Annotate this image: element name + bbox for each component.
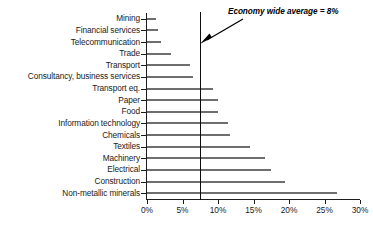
category-tick bbox=[141, 54, 147, 55]
category-tick bbox=[141, 30, 147, 31]
category-tick bbox=[141, 182, 147, 183]
value-tick bbox=[360, 200, 361, 204]
bar bbox=[147, 122, 228, 124]
bar bbox=[147, 29, 158, 31]
bar bbox=[147, 169, 271, 171]
bar bbox=[147, 134, 230, 136]
category-label: Telecommunication bbox=[71, 37, 140, 48]
value-tick bbox=[289, 200, 290, 204]
value-tick-label: 20% bbox=[274, 205, 304, 215]
category-tick bbox=[141, 147, 147, 148]
category-label: Transport bbox=[106, 60, 140, 71]
category-label: Trade bbox=[119, 48, 140, 59]
category-tick bbox=[141, 19, 147, 20]
category-label: Financial services bbox=[76, 25, 140, 36]
value-tick bbox=[218, 200, 219, 204]
category-label: Mining bbox=[116, 13, 140, 24]
bar bbox=[147, 146, 250, 148]
bar bbox=[147, 157, 265, 159]
value-tick-label: 15% bbox=[239, 205, 269, 215]
value-tick-label: 0% bbox=[132, 205, 162, 215]
annotation-arrow-icon bbox=[198, 18, 244, 44]
economy-average-annotation: Economy wide average = 8% bbox=[228, 7, 338, 16]
category-tick bbox=[141, 100, 147, 101]
category-label: Information technology bbox=[58, 118, 140, 129]
category-tick bbox=[141, 42, 147, 43]
value-tick-label: 25% bbox=[310, 205, 340, 215]
category-tick bbox=[141, 65, 147, 66]
category-tick bbox=[141, 77, 147, 78]
category-label: Transport eq. bbox=[92, 83, 140, 94]
plot-area bbox=[147, 13, 360, 199]
category-tick bbox=[141, 112, 147, 113]
bar bbox=[147, 64, 190, 66]
value-tick bbox=[183, 200, 184, 204]
category-tick bbox=[141, 135, 147, 136]
category-label: Machinery bbox=[103, 153, 140, 164]
bar bbox=[147, 41, 161, 43]
bar bbox=[147, 76, 193, 78]
bar bbox=[147, 53, 171, 55]
category-label: Paper bbox=[118, 95, 140, 106]
category-label: Electrical bbox=[107, 164, 140, 175]
bar bbox=[147, 111, 218, 113]
category-tick bbox=[141, 123, 147, 124]
value-tick-label: 30% bbox=[345, 205, 373, 215]
value-tick-label: 5% bbox=[168, 205, 198, 215]
bar bbox=[147, 88, 213, 90]
category-tick bbox=[141, 193, 147, 194]
category-label: Textiles bbox=[113, 141, 140, 152]
value-tick bbox=[254, 200, 255, 204]
bar bbox=[147, 99, 218, 101]
category-label: Construction bbox=[95, 176, 140, 187]
category-label: Consultancy, business services bbox=[28, 71, 140, 82]
category-tick bbox=[141, 158, 147, 159]
category-tick bbox=[141, 170, 147, 171]
value-tick bbox=[147, 200, 148, 204]
category-label: Food bbox=[121, 106, 140, 117]
category-tick bbox=[141, 89, 147, 90]
category-label: Non-metallic minerals bbox=[62, 188, 140, 199]
value-tick-label: 10% bbox=[203, 205, 233, 215]
bar bbox=[147, 181, 285, 183]
bar bbox=[147, 192, 337, 194]
category-label: Chemicals bbox=[102, 130, 140, 141]
category-axis-labels: MiningFinancial servicesTelecommunicatio… bbox=[0, 13, 143, 199]
value-tick bbox=[325, 200, 326, 204]
bar bbox=[147, 18, 156, 20]
